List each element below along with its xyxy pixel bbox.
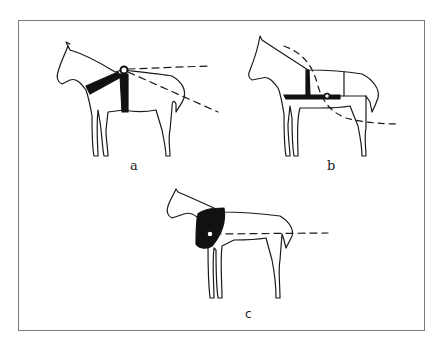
panel-c-label: c <box>245 307 252 321</box>
panel-b-tow-line <box>284 46 400 124</box>
panel-b-label: b <box>327 158 335 173</box>
panel-b-girth-strap-vertical <box>306 70 310 96</box>
panel-c-tow-line <box>214 233 328 234</box>
panel-c-horse-illustration <box>167 189 292 298</box>
panel-a-breast-strap <box>86 72 121 94</box>
panel-b-attachment-ring <box>325 94 330 99</box>
panel-c-collar-harness <box>196 208 225 248</box>
panel-b-belly-strap <box>284 95 340 99</box>
panel-c-attachment-ring <box>207 231 213 237</box>
panel-a-girth-strap <box>120 74 128 112</box>
panel-a-label: a <box>130 158 138 173</box>
panel-a-attachment-ring <box>121 67 128 74</box>
panel-a-tow-line-upper <box>128 66 208 69</box>
horse-harness-figure <box>0 0 442 350</box>
panel-a-tow-line-lower <box>128 72 218 112</box>
